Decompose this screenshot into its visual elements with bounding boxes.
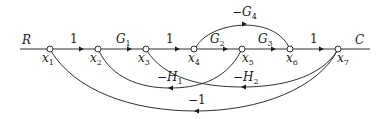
arrow-x1-x2-icon — [79, 47, 84, 52]
node-label-x4: x4 — [188, 51, 200, 67]
arrow-x3-x4-icon — [175, 47, 180, 52]
node-label-x5: x5 — [242, 51, 254, 67]
label-x1-x2: 1 — [70, 32, 78, 46]
arrow-x4-x6-icon — [242, 22, 247, 27]
label-x2-x3: G1 — [116, 32, 131, 48]
label-x7-x1: −1 — [188, 93, 206, 107]
label-x4-x5: G2 — [210, 32, 225, 48]
label-x5-x6: G3 — [258, 32, 273, 48]
signal-flow-graph: R C 1 G1 1 G2 G3 1 −G4 −H1 −H2 −1 x1 x2 … — [0, 0, 387, 119]
node-label-x7: x7 — [337, 51, 349, 67]
arrow-x7-x3-icon — [241, 85, 246, 90]
arrow-x6-x7-icon — [319, 47, 324, 52]
label-x3-x4: 1 — [166, 32, 174, 46]
arrow-x5-x2-icon — [168, 86, 173, 91]
node-label-x6: x6 — [286, 51, 298, 67]
input-label-R: R — [21, 33, 31, 47]
label-x4-x6: −G4 — [232, 5, 257, 21]
output-label-C: C — [355, 33, 364, 47]
label-x5-x2: −H1 — [157, 70, 183, 86]
node-label-x3: x3 — [138, 51, 150, 67]
label-x6-x7: 1 — [310, 32, 318, 46]
arrow-x7-x1-icon — [194, 109, 199, 114]
label-x7-x3: −H2 — [233, 70, 259, 86]
